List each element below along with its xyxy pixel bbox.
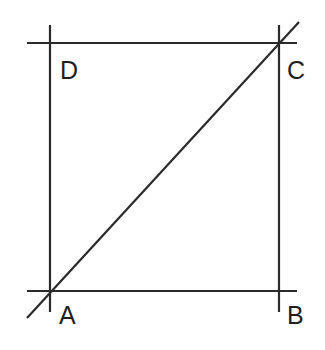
vertex-label-a: A	[59, 301, 76, 329]
vertex-label-c: C	[287, 56, 305, 84]
square-diagram: D C A B	[0, 0, 325, 350]
vertex-label-d: D	[60, 56, 78, 84]
vertex-label-b: B	[287, 301, 304, 329]
